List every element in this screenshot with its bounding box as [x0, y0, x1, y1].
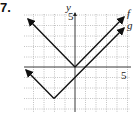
axes [24, 13, 131, 112]
graph: y 5 5 f g [0, 0, 134, 114]
label-f: f [127, 7, 132, 19]
curve-g-right [54, 28, 124, 99]
curve-f [28, 19, 75, 67]
y-axis-arrow-icon [73, 12, 77, 16]
grid [24, 14, 130, 112]
x-tick-5: 5 [121, 69, 127, 81]
y-tick-5: 5 [68, 10, 74, 22]
curve-g [26, 70, 54, 99]
curve-f-right [75, 17, 124, 67]
label-g: g [127, 19, 133, 31]
